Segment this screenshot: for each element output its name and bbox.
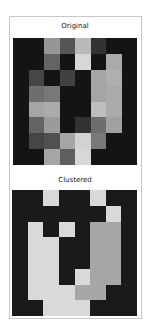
cluster-cell (75, 206, 91, 222)
pixel-cell (106, 149, 122, 165)
pixel-cell (44, 133, 60, 149)
cluster-cell (59, 222, 75, 238)
cluster-cell (43, 253, 59, 269)
pixel-cell (75, 133, 91, 149)
pixel-cell (13, 38, 29, 54)
pixel-cell (44, 149, 60, 165)
pixel-cell (75, 149, 91, 165)
pixel-cell (29, 133, 45, 149)
pixel-cell (122, 38, 138, 54)
cluster-cell (12, 222, 28, 238)
cluster-cell (59, 253, 75, 269)
cluster-cell (43, 285, 59, 301)
pixel-cell (29, 117, 45, 133)
cluster-cell (90, 206, 106, 222)
cluster-cell (59, 190, 75, 206)
cluster-cell (90, 222, 106, 238)
cluster-cell (12, 206, 28, 222)
pixel-cell (13, 149, 29, 165)
cluster-cell (75, 190, 91, 206)
pixel-cell (122, 133, 138, 149)
cluster-cell (90, 190, 106, 206)
cluster-cell (106, 237, 122, 253)
cluster-cell (75, 300, 91, 316)
pixel-cell (122, 54, 138, 70)
cluster-cell (106, 222, 122, 238)
cluster-cell (28, 206, 44, 222)
cluster-cell (43, 222, 59, 238)
cluster-cell (106, 206, 122, 222)
pixel-cell (29, 54, 45, 70)
pixel-cell (75, 86, 91, 102)
pixel-cell (122, 117, 138, 133)
cluster-cell (43, 269, 59, 285)
pixel-cell (91, 70, 107, 86)
pixel-cell (13, 54, 29, 70)
cluster-cell (106, 300, 122, 316)
original-title: Original (0, 22, 150, 30)
pixel-cell (106, 86, 122, 102)
cluster-cell (12, 269, 28, 285)
pixel-cell (29, 149, 45, 165)
cluster-cell (75, 253, 91, 269)
pixel-cell (60, 86, 76, 102)
pixel-cell (106, 70, 122, 86)
pixel-cell (106, 38, 122, 54)
cluster-cell (75, 237, 91, 253)
clustered-title: Clustered (0, 176, 150, 184)
pixel-cell (75, 38, 91, 54)
pixel-cell (122, 149, 138, 165)
cluster-cell (90, 285, 106, 301)
cluster-cell (121, 190, 137, 206)
cluster-cell (12, 285, 28, 301)
pixel-cell (13, 70, 29, 86)
cluster-cell (28, 269, 44, 285)
pixel-cell (60, 54, 76, 70)
cluster-cell (43, 237, 59, 253)
pixel-cell (91, 149, 107, 165)
cluster-cell (121, 285, 137, 301)
cluster-cell (28, 253, 44, 269)
cluster-cell (106, 253, 122, 269)
cluster-cell (28, 190, 44, 206)
pixel-cell (91, 86, 107, 102)
pixel-cell (44, 86, 60, 102)
cluster-cell (121, 222, 137, 238)
cluster-cell (90, 253, 106, 269)
pixel-cell (122, 102, 138, 118)
cluster-cell (59, 285, 75, 301)
cluster-cell (59, 269, 75, 285)
pixel-cell (91, 54, 107, 70)
pixel-cell (29, 38, 45, 54)
pixel-cell (29, 102, 45, 118)
pixel-cell (44, 38, 60, 54)
cluster-cell (59, 300, 75, 316)
pixel-cell (91, 38, 107, 54)
cluster-cell (90, 237, 106, 253)
cluster-cell (121, 269, 137, 285)
cluster-cell (12, 190, 28, 206)
pixel-cell (122, 70, 138, 86)
pixel-cell (106, 54, 122, 70)
pixel-cell (13, 117, 29, 133)
cluster-cell (43, 206, 59, 222)
cluster-cell (90, 269, 106, 285)
pixel-cell (75, 54, 91, 70)
pixel-cell (122, 86, 138, 102)
pixel-cell (13, 133, 29, 149)
cluster-cell (121, 237, 137, 253)
pixel-cell (60, 133, 76, 149)
cluster-cell (12, 300, 28, 316)
cluster-cell (75, 269, 91, 285)
pixel-cell (13, 102, 29, 118)
pixel-cell (60, 102, 76, 118)
cluster-cell (106, 269, 122, 285)
cluster-cell (121, 253, 137, 269)
pixel-cell (13, 86, 29, 102)
pixel-cell (44, 70, 60, 86)
cluster-cell (43, 190, 59, 206)
pixel-cell (44, 102, 60, 118)
clustered-image-grid (12, 190, 137, 316)
pixel-cell (29, 86, 45, 102)
cluster-cell (90, 300, 106, 316)
